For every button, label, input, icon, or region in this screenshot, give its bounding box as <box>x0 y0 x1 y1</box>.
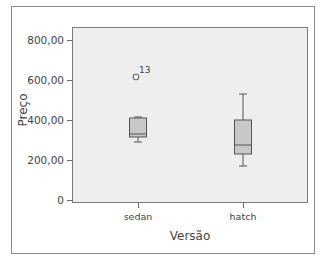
box <box>235 120 252 154</box>
boxplot-layer: 13 <box>0 0 321 260</box>
outlier-label: 13 <box>139 65 150 75</box>
